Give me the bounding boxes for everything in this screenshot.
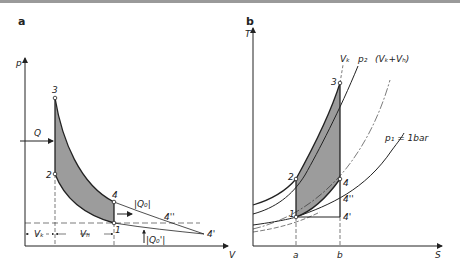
q0-label: |Q₀| xyxy=(134,199,151,209)
tick-a: a xyxy=(293,250,299,260)
ts-label-4p: 4' xyxy=(343,212,351,222)
ts-label-1: 1 xyxy=(289,209,295,219)
ts-label-2: 2 xyxy=(288,172,294,182)
ts-point-4 xyxy=(338,177,342,181)
ts-label-3: 3 xyxy=(331,77,337,87)
t-axis-label: T xyxy=(245,29,252,39)
ts-label-4pp: 4'' xyxy=(343,194,354,204)
q0p-label: |Q₀'| xyxy=(146,235,165,245)
panel-a: a p V Vₖ Vₕ Q |Q₀| |Q₀'| xyxy=(15,15,236,260)
curve-label-vkvh: (Vₖ+Vₕ) xyxy=(375,54,409,64)
label-3: 3 xyxy=(52,85,58,95)
panel-b: b T S a b Vₖ p₂ (Vₖ+Vₕ) p₁ xyxy=(245,15,442,260)
panel-b-label: b xyxy=(246,15,254,28)
vk-label: Vₖ xyxy=(34,229,44,239)
aux-curve xyxy=(253,212,320,232)
q-label: Q xyxy=(34,128,41,138)
cycle-area xyxy=(55,98,114,223)
tick-b: b xyxy=(337,250,343,260)
point-2 xyxy=(53,172,57,176)
label-2: 2 xyxy=(46,170,52,180)
ts-label-4: 4 xyxy=(343,178,349,188)
ts-point-1 xyxy=(294,215,298,219)
label-4p: 4' xyxy=(207,229,215,239)
thermo-cycle-diagram: a p V Vₖ Vₕ Q |Q₀| |Q₀'| xyxy=(0,0,460,271)
label-4pp: 4'' xyxy=(164,212,175,222)
curve-label-p1: p₁ = 1bar xyxy=(384,133,430,143)
label-4: 4 xyxy=(112,190,118,200)
v-axis-label: V xyxy=(229,250,236,260)
curve-label-vk: Vₖ xyxy=(340,54,350,64)
label-1: 1 xyxy=(115,225,121,235)
point-3 xyxy=(53,96,57,100)
point-4 xyxy=(112,200,116,204)
ts-point-3 xyxy=(338,81,342,85)
s-axis-label: S xyxy=(435,250,441,260)
p-axis-label: p xyxy=(15,58,22,68)
panel-a-label: a xyxy=(18,15,25,28)
compression-from-4p xyxy=(114,223,204,234)
vh-label: Vₕ xyxy=(80,229,90,239)
vk-curve-ext xyxy=(340,65,343,83)
ts-point-2 xyxy=(294,177,298,181)
curve-label-p2: p₂ xyxy=(357,54,368,64)
